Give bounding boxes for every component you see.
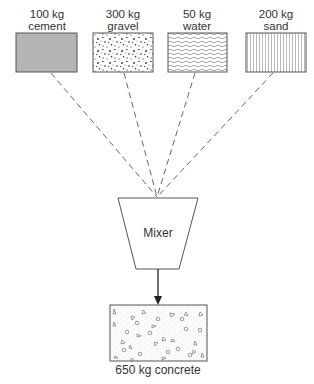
input-gravel: 300 kg gravel [93,8,153,72]
mixer-label: Mixer [143,226,172,240]
flow-line-gravel [124,73,157,197]
mass-balance-diagram: 100 kg cement 300 kg gravel 50 kg water … [0,0,314,384]
cement-box [16,33,77,72]
cement-label: cement [28,20,67,32]
flow-line-sand [157,73,273,197]
water-amount: 50 kg [183,8,211,20]
gravel-box [93,33,153,72]
input-cement: 100 kg cement [16,8,77,72]
arrow-head-icon [154,296,162,305]
input-sand: 200 kg sand [246,8,306,72]
sand-amount: 200 kg [259,8,294,20]
sand-label: sand [264,20,289,32]
flow-lines [51,73,273,197]
flow-line-cement [51,73,157,197]
mixer: Mixer [118,198,198,269]
flow-line-water [157,73,195,197]
sand-box [246,33,306,72]
concrete-label: 650 kg concrete [115,363,201,377]
water-box [168,33,227,72]
cement-amount: 100 kg [30,8,65,20]
gravel-label: gravel [107,20,138,32]
water-label: water [182,20,211,32]
output-arrow [154,269,162,305]
input-water: 50 kg water [168,8,227,72]
output-concrete: 650 kg concrete [110,305,207,377]
gravel-amount: 300 kg [106,8,141,20]
